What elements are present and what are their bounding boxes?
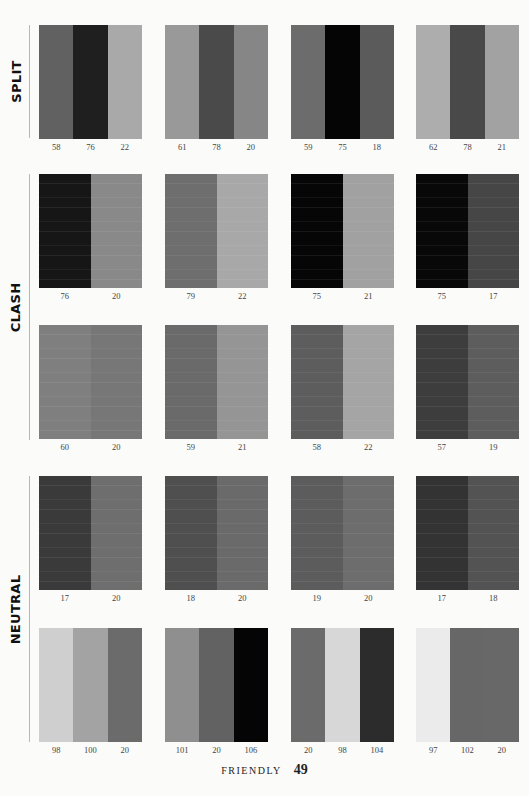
color-band [199, 628, 233, 742]
color-code-label: 19 [468, 442, 520, 454]
section-title: CLASH [9, 282, 24, 332]
color-band [360, 25, 394, 139]
swatch-labels: 7620 [39, 291, 142, 303]
color-code-label: 78 [199, 142, 233, 154]
color-band [73, 628, 107, 742]
color-code-label: 22 [108, 142, 142, 154]
color-band [91, 325, 143, 439]
color-swatch [416, 628, 519, 742]
color-swatch [165, 628, 268, 742]
section-label-clash: CLASH [6, 174, 26, 440]
color-swatch [416, 325, 519, 439]
color-code-label: 75 [291, 291, 343, 303]
color-code-label: 21 [217, 442, 269, 454]
color-band [343, 476, 395, 590]
color-code-label: 106 [234, 745, 268, 757]
color-swatch [39, 174, 142, 288]
color-code-label: 58 [39, 142, 73, 154]
color-band [91, 174, 143, 288]
color-band [416, 628, 450, 742]
page-footer: FRIENDLY 49 [0, 760, 529, 778]
color-code-label: 20 [91, 593, 143, 605]
color-code-label: 20 [485, 745, 519, 757]
color-code-label: 20 [291, 745, 325, 757]
swatch-labels: 5822 [291, 442, 394, 454]
color-code-label: 20 [343, 593, 395, 605]
section-title: NEUTRAL [9, 574, 24, 644]
page-number: 49 [294, 762, 308, 777]
running-footer-title: FRIENDLY [221, 765, 281, 776]
color-band [416, 25, 450, 139]
color-band [165, 628, 199, 742]
color-band [217, 476, 269, 590]
color-band [291, 325, 343, 439]
swatch-labels: 627821 [416, 142, 519, 154]
color-code-label: 76 [39, 291, 91, 303]
color-band [343, 325, 395, 439]
color-swatch [39, 325, 142, 439]
color-band [291, 628, 325, 742]
swatch-labels: 1820 [165, 593, 268, 605]
color-code-label: 102 [450, 745, 484, 757]
swatch-labels: 7521 [291, 291, 394, 303]
color-swatch [39, 476, 142, 590]
color-code-label: 20 [91, 291, 143, 303]
color-code-label: 20 [91, 442, 143, 454]
swatch-labels: 2098104 [291, 745, 394, 757]
color-band [73, 25, 107, 139]
swatch-labels: 9710220 [416, 745, 519, 757]
color-band [91, 476, 143, 590]
color-code-label: 17 [468, 291, 520, 303]
color-swatch [291, 325, 394, 439]
color-code-label: 98 [325, 745, 359, 757]
color-swatch [291, 174, 394, 288]
color-band [416, 476, 468, 590]
color-code-label: 18 [468, 593, 520, 605]
color-code-label: 76 [73, 142, 107, 154]
swatch-labels: 9810020 [39, 745, 142, 757]
color-band [39, 628, 73, 742]
color-swatch [291, 25, 394, 139]
color-band [165, 25, 199, 139]
color-code-label: 17 [39, 593, 91, 605]
color-band [450, 628, 484, 742]
color-band [416, 325, 468, 439]
color-band [199, 25, 233, 139]
swatch-labels: 10120106 [165, 745, 268, 757]
color-band [360, 628, 394, 742]
swatch-labels: 1718 [416, 593, 519, 605]
color-code-label: 61 [165, 142, 199, 154]
color-band [485, 628, 519, 742]
color-band [39, 325, 91, 439]
swatch-labels: 1920 [291, 593, 394, 605]
swatch-labels: 597518 [291, 142, 394, 154]
section-rule-clash [29, 174, 30, 440]
color-swatch [39, 628, 142, 742]
color-code-label: 104 [360, 745, 394, 757]
swatch-labels: 617820 [165, 142, 268, 154]
color-band [108, 628, 142, 742]
color-band [291, 476, 343, 590]
color-swatch [416, 25, 519, 139]
color-code-label: 97 [416, 745, 450, 757]
color-band [39, 476, 91, 590]
color-code-label: 79 [165, 291, 217, 303]
color-code-label: 18 [360, 142, 394, 154]
color-code-label: 75 [325, 142, 359, 154]
color-swatch [165, 174, 268, 288]
color-code-label: 22 [343, 442, 395, 454]
swatch-labels: 5921 [165, 442, 268, 454]
color-code-label: 62 [416, 142, 450, 154]
section-title: SPLIT [9, 60, 24, 102]
color-swatch [291, 628, 394, 742]
color-code-label: 60 [39, 442, 91, 454]
color-band [165, 476, 217, 590]
color-band [485, 25, 519, 139]
color-code-label: 18 [165, 593, 217, 605]
color-band [234, 25, 268, 139]
color-code-label: 21 [343, 291, 395, 303]
color-swatch [165, 325, 268, 439]
color-code-label: 100 [73, 745, 107, 757]
color-band [468, 174, 520, 288]
swatch-labels: 7517 [416, 291, 519, 303]
